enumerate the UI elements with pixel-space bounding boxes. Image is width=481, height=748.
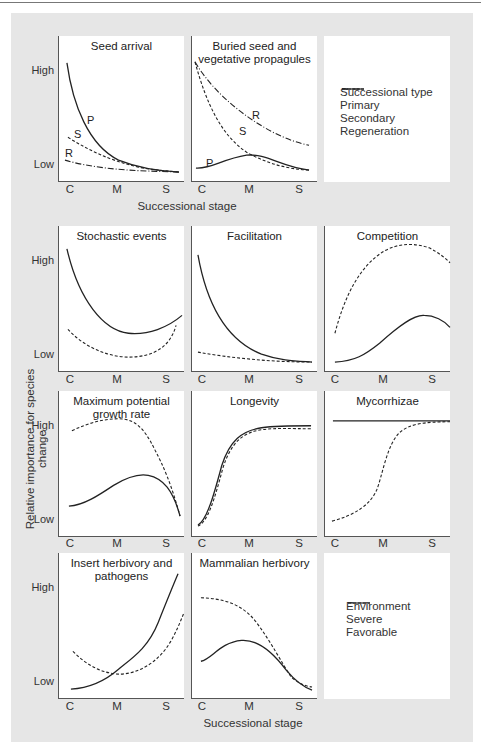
- x-tick-m: M: [373, 373, 393, 385]
- legend-item-primary: Primary: [340, 99, 433, 112]
- insect-herbivory-curves: [59, 553, 184, 698]
- panel-max-growth-rate: Maximum potentialgrowth rate: [58, 391, 184, 537]
- curve-label-s: S: [74, 128, 81, 140]
- curve-label-r: R: [252, 109, 260, 121]
- legend-item-favorable: Favorable: [346, 626, 411, 639]
- x-tick-m: M: [373, 537, 393, 549]
- y-tick-high: High: [18, 581, 54, 593]
- x-tick-m: M: [239, 373, 259, 385]
- x-tick-c: C: [60, 537, 80, 549]
- x-axis-label: Successional stage: [87, 200, 287, 212]
- y-tick-high: High: [18, 64, 54, 76]
- panel-stochastic-events: Stochastic events: [58, 226, 184, 372]
- x-tick-s: S: [156, 373, 176, 385]
- top-rule: [0, 2, 481, 3]
- x-tick-s: S: [156, 183, 176, 195]
- y-tick-high: High: [18, 254, 54, 266]
- x-tick-m: M: [239, 537, 259, 549]
- x-axis-label: Successional stage: [153, 717, 353, 729]
- legend-item-severe: Severe: [346, 613, 411, 626]
- panel-mycorrhizae: Mycorrhizae: [324, 391, 450, 537]
- mammalian-herbivory-curves: [192, 553, 317, 698]
- y-tick-low: Low: [18, 513, 54, 525]
- x-tick-s: S: [289, 373, 309, 385]
- legend-item-secondary: Secondary: [340, 112, 433, 125]
- panel-insect-herbivory: Insert herbivory andpathogens: [58, 553, 184, 699]
- x-tick-s: S: [289, 183, 309, 195]
- facilitation-curves: [192, 226, 317, 371]
- y-tick-low: Low: [18, 675, 54, 687]
- panel-buried-seed: Buried seed andvegetative propagules R S…: [191, 36, 317, 182]
- curve-label-p: P: [206, 157, 213, 169]
- x-tick-c: C: [192, 537, 212, 549]
- x-tick-c: C: [60, 373, 80, 385]
- curve-label-p: P: [87, 114, 94, 126]
- panel-mammalian-herbivory: Mammalian herbivory: [191, 553, 317, 699]
- x-tick-c: C: [192, 700, 212, 712]
- curve-label-s: S: [239, 125, 246, 137]
- longevity-curves: [192, 391, 317, 536]
- y-tick-low: Low: [18, 348, 54, 360]
- x-tick-s: S: [289, 537, 309, 549]
- x-tick-s: S: [289, 700, 309, 712]
- x-tick-c: C: [60, 700, 80, 712]
- x-tick-c: C: [325, 537, 345, 549]
- x-tick-m: M: [239, 183, 259, 195]
- x-tick-s: S: [422, 373, 442, 385]
- x-tick-m: M: [107, 700, 127, 712]
- x-tick-s: S: [156, 537, 176, 549]
- competition-curves: [325, 226, 450, 371]
- x-tick-m: M: [107, 373, 127, 385]
- y-tick-low: Low: [18, 158, 54, 170]
- legend-successional-type: Successional type Primary Secondary Rege…: [340, 86, 433, 138]
- x-tick-c: C: [192, 183, 212, 195]
- x-tick-s: S: [156, 700, 176, 712]
- y-tick-high: High: [18, 419, 54, 431]
- x-tick-m: M: [107, 537, 127, 549]
- x-tick-m: M: [239, 700, 259, 712]
- x-tick-c: C: [192, 373, 212, 385]
- panel-longevity: Longevity: [191, 391, 317, 537]
- curve-label-r: R: [65, 147, 73, 159]
- stochastic-curves: [59, 226, 184, 371]
- x-tick-m: M: [107, 183, 127, 195]
- panel-facilitation: Facilitation: [191, 226, 317, 372]
- dashdot-line-icon: [340, 86, 366, 92]
- legend-environment: Environment Severe Favorable: [346, 600, 411, 639]
- x-tick-c: C: [325, 373, 345, 385]
- legend-panel-environment: Environment Severe Favorable: [324, 553, 450, 699]
- x-tick-s: S: [422, 537, 442, 549]
- mycorrhizae-curves: [325, 391, 450, 536]
- growth-rate-curves: [59, 391, 184, 536]
- seed-arrival-curves: [59, 36, 184, 181]
- panel-competition: Competition: [324, 226, 450, 372]
- dashed-line-icon: [346, 600, 372, 606]
- legend-panel-successional-type: Successional type Primary Secondary Rege…: [324, 36, 450, 182]
- x-tick-c: C: [60, 183, 80, 195]
- panel-seed-arrival: Seed arrival P S R: [58, 36, 184, 182]
- legend-item-regeneration: Regeneration: [340, 125, 433, 138]
